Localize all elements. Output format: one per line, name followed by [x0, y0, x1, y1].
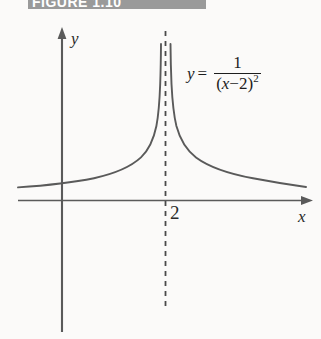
equation-denominator-exponent: 2	[253, 73, 259, 85]
figure-page: FIGURE 1.10 y x 2 y = 1	[0, 0, 321, 339]
equation-numerator: 1	[227, 54, 248, 73]
y-axis-arrowhead	[58, 27, 67, 39]
equation-equals-sign: =	[198, 64, 208, 84]
equation-fraction: 1 (x−2)2	[214, 54, 260, 93]
x-axis-label: x	[298, 208, 306, 225]
y-axis-label: y	[71, 30, 79, 47]
equation-denominator: (x−2)2	[214, 74, 260, 93]
equation-lhs: y	[187, 64, 195, 84]
graph-svg	[0, 0, 321, 339]
equation-annotation: y = 1 (x−2)2	[187, 54, 261, 93]
x-tick-label-2: 2	[170, 203, 180, 222]
x-axis-arrowhead	[301, 196, 313, 205]
curve-left-branch	[18, 44, 161, 187]
graph-figure	[0, 0, 321, 339]
equation-denominator-minus: −	[229, 74, 239, 93]
